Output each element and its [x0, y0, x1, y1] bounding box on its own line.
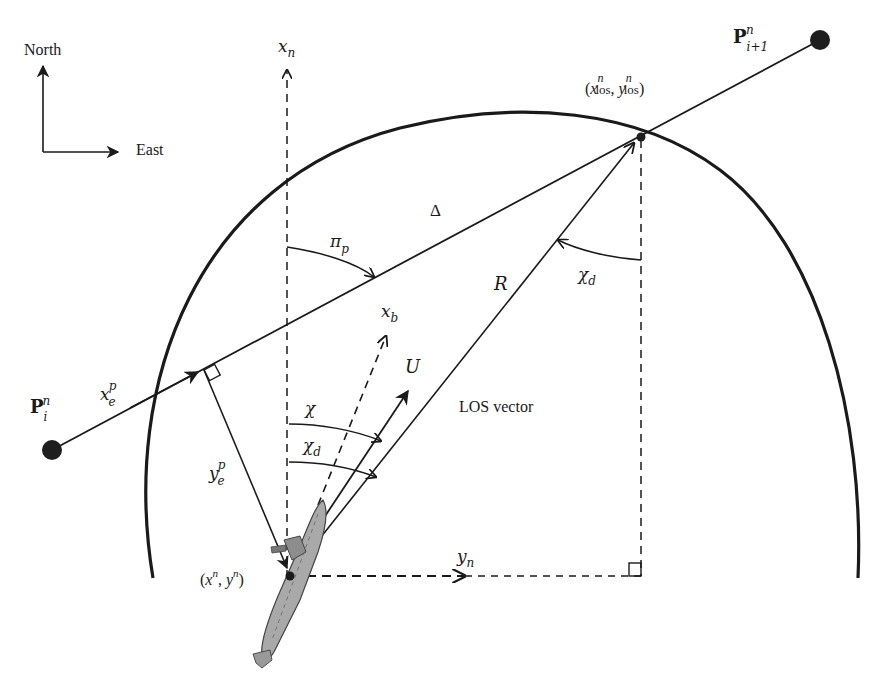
- desired-course-label-bottom: χd: [302, 435, 321, 459]
- desired-course-label-top: χd: [577, 264, 596, 288]
- vehicle-position-label: (xn, yn): [200, 567, 244, 589]
- body-axis-label: xb: [381, 301, 398, 325]
- waypoint-end-label: Pi+1n: [733, 23, 768, 54]
- los-point-label: (xnlos,ynlos): [585, 71, 644, 98]
- vessel-icon: [253, 500, 326, 668]
- diagram-canvas: North East Pin Pi+1n (xnlos,ynlos) xn yn…: [0, 0, 879, 695]
- cross-track-label: yep: [208, 458, 226, 488]
- compass: North East: [24, 41, 164, 158]
- desired-course-arc-top: [558, 240, 641, 260]
- waypoint-start-label: Pin: [30, 394, 50, 424]
- course-label: χ: [304, 398, 317, 418]
- waypoint-start-dot: [42, 440, 62, 460]
- body-axis-dashed: [318, 336, 386, 505]
- los-vector-label: LOS vector: [459, 398, 534, 415]
- north-label: North: [24, 41, 61, 58]
- along-track-label: xep: [100, 379, 117, 409]
- speed-label: U: [405, 356, 421, 377]
- los-guidance-diagram: North East Pin Pi+1n (xnlos,ynlos) xn yn…: [0, 0, 879, 695]
- path-direction-arrow-icon: [130, 372, 198, 408]
- path-angle-arc: [287, 247, 374, 277]
- vehicle-position-dot: [286, 572, 295, 581]
- lookahead-delta-label: Δ: [430, 201, 441, 220]
- north-axis-label: xn: [278, 36, 295, 60]
- waypoint-end-dot: [810, 30, 830, 50]
- los-vector-line: [290, 143, 634, 576]
- right-angle-marker-bottom: [629, 563, 641, 576]
- desired-course-arc-bottom: [289, 462, 376, 477]
- path-angle-label: πp: [329, 231, 349, 256]
- los-circle-arc: [146, 112, 859, 578]
- east-label: East: [136, 141, 164, 158]
- range-label: R: [493, 273, 508, 294]
- east-axis-label: yn: [456, 546, 474, 570]
